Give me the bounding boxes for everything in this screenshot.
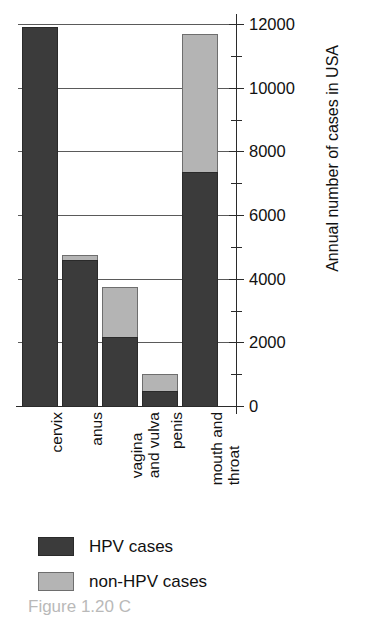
y-tick-minor-11000 — [231, 56, 242, 57]
bar-segment-hpv — [182, 172, 218, 406]
bar-cervix — [22, 27, 58, 406]
y-tick-label-4000: 4000 — [249, 270, 286, 287]
x-label-penis: penis — [168, 412, 185, 449]
bar-anus — [62, 255, 98, 406]
y-tick-minor-3000 — [231, 311, 242, 312]
x-label-cervix: cervix — [48, 412, 65, 452]
bar-segment-hpv — [62, 260, 98, 406]
legend-item-hpv: HPV cases — [38, 533, 298, 560]
y-tick-major-8000 — [229, 151, 244, 152]
y-axis-line — [236, 14, 237, 414]
bar-segment-non-hpv — [102, 287, 138, 337]
bar-mouth-and-throat — [182, 34, 218, 406]
chart-legend: HPV cases non-HPV cases — [38, 533, 298, 603]
x-label-line: cervix — [48, 412, 65, 452]
y-tick-minor-1000 — [231, 374, 242, 375]
y-tick-label-12000: 12000 — [249, 16, 295, 33]
y-tick-minor-5000 — [231, 247, 242, 248]
y-tick-label-6000: 6000 — [249, 207, 286, 224]
x-label-line: anus — [88, 412, 105, 446]
y-tick-major-12000 — [229, 24, 244, 25]
legend-swatch-non-hpv-icon — [38, 572, 74, 591]
x-label-mouth-and-throat: mouth andthroat — [208, 412, 243, 485]
bar-segment-non-hpv — [182, 34, 218, 172]
plot-area — [18, 24, 236, 406]
x-axis-line — [16, 406, 240, 407]
y-tick-label-0: 0 — [249, 398, 258, 415]
x-label-line: mouth and — [208, 412, 225, 485]
gridline-12000 — [18, 24, 236, 25]
y-tick-major-10000 — [229, 88, 244, 89]
legend-swatch-hpv-icon — [38, 537, 74, 556]
legend-label-non-hpv: non-HPV cases — [89, 572, 207, 592]
y-tick-major-4000 — [229, 279, 244, 280]
x-label-line: and vulva — [145, 412, 162, 478]
bar-segment-hpv — [22, 27, 58, 406]
bar-segment-non-hpv — [142, 374, 178, 391]
y-tick-label-2000: 2000 — [249, 334, 286, 351]
bar-segment-hpv — [142, 391, 178, 406]
y-tick-major-2000 — [229, 342, 244, 343]
legend-label-hpv: HPV cases — [89, 537, 173, 557]
y-tick-label-8000: 8000 — [249, 143, 286, 160]
y-tick-major-6000 — [229, 215, 244, 216]
x-axis-category-labels: cervixanusvaginaand vulvapenismouth andt… — [18, 408, 240, 524]
bar-vagina-and-vulva — [102, 287, 138, 406]
bar-segment-hpv — [102, 337, 138, 406]
bar-penis — [142, 374, 178, 406]
legend-item-non-hpv: non-HPV cases — [38, 568, 298, 595]
y-tick-minor-9000 — [231, 120, 242, 121]
y-tick-label-10000: 10000 — [249, 79, 295, 96]
chart-figure: 020004000600080001000012000 cervixanusva… — [0, 0, 365, 617]
x-label-line: throat — [225, 412, 242, 485]
y-axis-title: Annual number of cases in USA — [324, 45, 342, 272]
y-tick-minor-7000 — [231, 183, 242, 184]
x-label-line: penis — [168, 412, 185, 449]
figure-caption: Figure 1.20 C — [28, 597, 131, 617]
x-label-line: vagina — [128, 412, 145, 478]
x-label-vagina-and-vulva: vaginaand vulva — [128, 412, 163, 478]
x-label-anus: anus — [88, 412, 105, 446]
